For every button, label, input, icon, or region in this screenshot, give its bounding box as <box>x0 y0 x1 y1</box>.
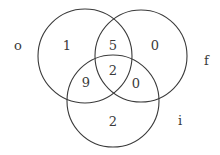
region-value-f-i: 0 <box>132 76 140 91</box>
venn-diagram: ofi 1502902 <box>0 0 220 155</box>
region-value-o-f-i: 2 <box>109 63 117 78</box>
region-value-f-only: 0 <box>151 38 159 53</box>
region-value-i-only: 2 <box>109 114 117 129</box>
region-value-o-f: 5 <box>109 38 117 53</box>
set-label-i: i <box>178 113 182 128</box>
region-value-o-i: 9 <box>82 75 90 90</box>
region-value-o-only: 1 <box>63 38 71 53</box>
venn-svg: ofi 1502902 <box>0 0 220 155</box>
set-label-o: o <box>14 38 22 53</box>
set-circle-f <box>95 10 187 102</box>
set-label-f: f <box>204 53 210 68</box>
